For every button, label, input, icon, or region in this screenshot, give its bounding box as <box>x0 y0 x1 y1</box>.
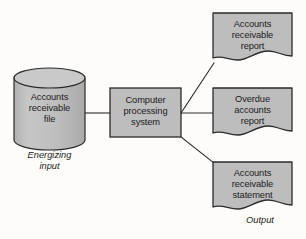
process-box <box>110 88 181 137</box>
document-icon-1[interactable] <box>213 88 292 135</box>
diagram-canvas: Accounts receivable file Computer proces… <box>0 0 306 239</box>
cylinder-top <box>14 68 85 88</box>
connector-process-to-report-1 <box>181 63 214 113</box>
document-shape-2 <box>213 162 292 209</box>
document-shape-1 <box>213 88 292 135</box>
cylinder-database-icon[interactable] <box>14 68 85 150</box>
document-icon-2[interactable] <box>213 162 292 209</box>
connector-process-to-report-3 <box>181 137 214 163</box>
diagram-shapes-layer <box>0 0 306 239</box>
rectangle-process-icon[interactable] <box>110 88 181 137</box>
cylinder-body <box>14 78 85 150</box>
document-icon-0[interactable] <box>213 13 292 60</box>
document-shape-0 <box>213 13 292 60</box>
